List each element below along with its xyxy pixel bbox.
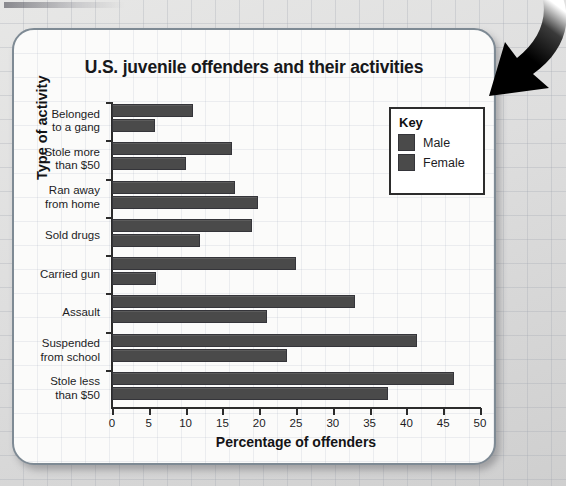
y-axis-tick-label: Assault	[12, 306, 100, 320]
y-axis-tick-label: Stole less than $50	[12, 375, 100, 402]
y-axis-tick-label: Stole more than $50	[12, 146, 100, 173]
bar-male	[112, 295, 355, 308]
legend-swatch-female	[398, 154, 415, 171]
y-axis-tick-label: Belonged to a gang	[12, 108, 100, 135]
x-axis-tick-label: 30	[326, 417, 339, 429]
x-axis-tick	[480, 408, 482, 415]
legend-item-female: Female	[398, 154, 476, 171]
x-axis-tick	[222, 408, 224, 415]
x-axis-tick	[443, 408, 445, 415]
legend-label-female: Female	[423, 156, 465, 170]
bar-female	[112, 196, 258, 209]
y-axis-tick	[106, 179, 112, 181]
bar-group: Sold drugs	[112, 217, 480, 255]
x-axis-tick	[296, 408, 298, 415]
bar-male	[112, 104, 193, 117]
bar-group: Assault	[112, 293, 480, 331]
y-axis-tick-label: Ran away from home	[12, 184, 100, 211]
x-axis-tick	[186, 408, 188, 415]
x-axis-tick-label: 40	[400, 417, 413, 429]
legend-title: Key	[399, 115, 476, 130]
legend-item-male: Male	[398, 134, 476, 151]
bar-male	[112, 142, 232, 155]
y-axis-tick	[106, 370, 112, 372]
y-axis-tick	[106, 102, 112, 104]
x-axis-tick-label: 5	[146, 417, 152, 429]
y-axis-tick-label: Sold drugs	[12, 229, 100, 243]
legend-label-male: Male	[423, 136, 450, 150]
x-axis-tick-label: 50	[474, 417, 487, 429]
bar-male	[112, 257, 296, 270]
bar-group: Suspended from school	[112, 332, 480, 370]
legend-key-box: Key Male Female	[389, 107, 485, 195]
bar-female	[112, 310, 267, 323]
bar-group: Stole less than $50	[112, 370, 480, 408]
x-axis-tick	[370, 408, 372, 415]
legend-swatch-male	[398, 134, 415, 151]
bar-female	[112, 119, 155, 132]
chart-card: U.S. juvenile offenders and their activi…	[12, 28, 496, 465]
x-axis-tick-label: 20	[253, 417, 266, 429]
bar-male	[112, 219, 252, 232]
y-axis-tick-label: Suspended from school	[12, 337, 100, 364]
x-axis-tick-label: 25	[290, 417, 303, 429]
y-axis-tick	[106, 217, 112, 219]
x-axis-tick	[112, 408, 114, 415]
y-axis-tick	[106, 293, 112, 295]
x-axis-tick-label: 10	[179, 417, 192, 429]
x-axis-tick-label: 0	[109, 417, 115, 429]
bar-female	[112, 157, 186, 170]
bar-male	[112, 181, 235, 194]
x-axis-tick	[259, 408, 261, 415]
page-title: U.S. juvenile offenders and their activi…	[14, 57, 494, 78]
y-axis-tick	[106, 332, 112, 334]
y-axis-tick	[106, 255, 112, 257]
x-axis-tick-label: 35	[363, 417, 376, 429]
y-axis-tick	[106, 140, 112, 142]
page-header-smudge	[4, 2, 124, 8]
x-axis-tick	[406, 408, 408, 415]
y-axis-tick-label: Carried gun	[12, 268, 100, 282]
bar-male	[112, 372, 454, 385]
x-axis-tick	[333, 408, 335, 415]
bar-female	[112, 387, 388, 400]
x-axis-tick-label: 45	[437, 417, 450, 429]
x-axis-tick	[149, 408, 151, 415]
bar-female	[112, 349, 287, 362]
bar-female	[112, 272, 156, 285]
bar-female	[112, 234, 200, 247]
x-axis-title: Percentage of offenders	[112, 434, 480, 450]
bar-group: Carried gun	[112, 255, 480, 293]
bar-male	[112, 334, 417, 347]
x-axis-tick-label: 15	[216, 417, 229, 429]
